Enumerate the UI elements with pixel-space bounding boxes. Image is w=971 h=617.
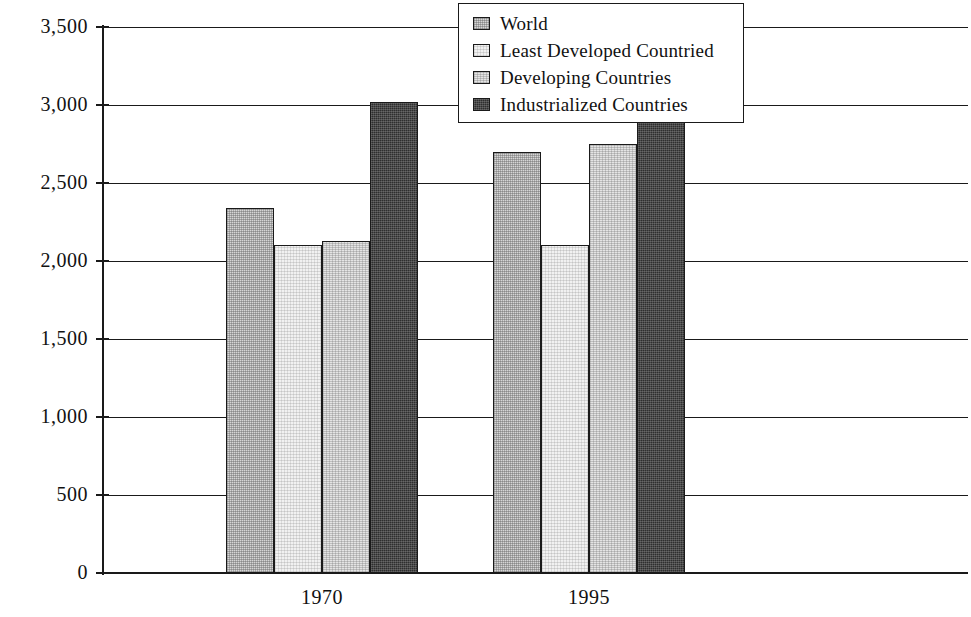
bar-least-developed-countried-1970: [274, 245, 322, 573]
legend-swatch-least-developed: [473, 44, 490, 57]
bar-developing-countries-1970: [322, 241, 370, 573]
bar-chart: 05001,0001,5002,0002,5003,0003,500 19701…: [0, 0, 971, 617]
legend-swatch-world: [473, 17, 490, 30]
x-tick-label: 1995: [509, 586, 669, 608]
bar-world-1970: [226, 208, 274, 573]
legend-swatch-industrialized: [473, 98, 490, 111]
y-tick-label: 3,500: [4, 16, 88, 36]
y-tick-label: 1,000: [4, 406, 88, 426]
y-tick-label: 2,500: [4, 172, 88, 192]
y-tick-label: 1,500: [4, 328, 88, 348]
legend-swatch-developing: [473, 71, 490, 84]
x-axis-line: [96, 572, 968, 574]
legend-item: Least Developed Countried: [473, 37, 743, 64]
legend-label-developing: Developing Countries: [500, 67, 671, 88]
legend-label-industrialized: Industrialized Countries: [500, 94, 688, 115]
bar-developing-countries-1995: [589, 144, 637, 573]
y-axis-line: [102, 25, 104, 575]
bar-world-1995: [493, 152, 541, 573]
bar-industrialized-countries-1995: [637, 82, 685, 573]
y-tick-label: 2,000: [4, 250, 88, 270]
bar-industrialized-countries-1970: [370, 102, 418, 573]
legend-item: World: [473, 10, 743, 37]
y-tick-label: 500: [4, 484, 88, 504]
bar-least-developed-countried-1995: [541, 245, 589, 573]
legend: World Least Developed Countried Developi…: [458, 3, 744, 123]
legend-item: Industrialized Countries: [473, 91, 743, 118]
legend-label-least-developed: Least Developed Countried: [500, 40, 714, 61]
legend-label-world: World: [500, 13, 548, 34]
y-tick-label: 0: [4, 562, 88, 582]
x-tick-label: 1970: [242, 586, 402, 608]
y-tick-label: 3,000: [4, 94, 88, 114]
legend-item: Developing Countries: [473, 64, 743, 91]
